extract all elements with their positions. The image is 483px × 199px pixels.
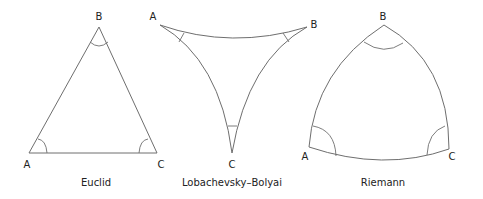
- riemann-label-c: C: [449, 151, 456, 162]
- riemann-caption: Riemann: [361, 177, 405, 188]
- euclid-angle-c: [139, 139, 148, 153]
- riemann-angle-c: [427, 126, 445, 155]
- euclid-triangle: B A C Euclid: [24, 11, 165, 188]
- euclid-caption: Euclid: [81, 177, 111, 188]
- lobachevsky-edges: [160, 25, 307, 153]
- lobachevsky-label-b: B: [311, 19, 318, 30]
- riemann-edges: [309, 25, 449, 160]
- riemann-label-b: B: [380, 11, 387, 22]
- lobachevsky-label-c: C: [229, 159, 236, 170]
- riemann-triangle: B A C Riemann: [302, 11, 456, 188]
- lobachevsky-bolyai-triangle: A B C Lobachevsky–Bolyai: [150, 11, 318, 188]
- lobachevsky-label-a: A: [150, 11, 157, 22]
- geometry-triangles-diagram: B A C Euclid A B C Lobachevsky–Bolyai B …: [0, 0, 483, 199]
- riemann-angle-b: [364, 42, 403, 49]
- euclid-edges: [29, 27, 157, 153]
- riemann-label-a: A: [302, 151, 309, 162]
- euclid-label-a: A: [24, 159, 31, 170]
- euclid-angle-b: [90, 42, 108, 46]
- lobachevsky-angle-b: [283, 33, 289, 42]
- euclid-label-b: B: [96, 11, 103, 22]
- lobachevsky-caption: Lobachevsky–Bolyai: [182, 177, 282, 188]
- euclid-label-c: C: [158, 159, 165, 170]
- euclid-angle-a: [38, 139, 47, 153]
